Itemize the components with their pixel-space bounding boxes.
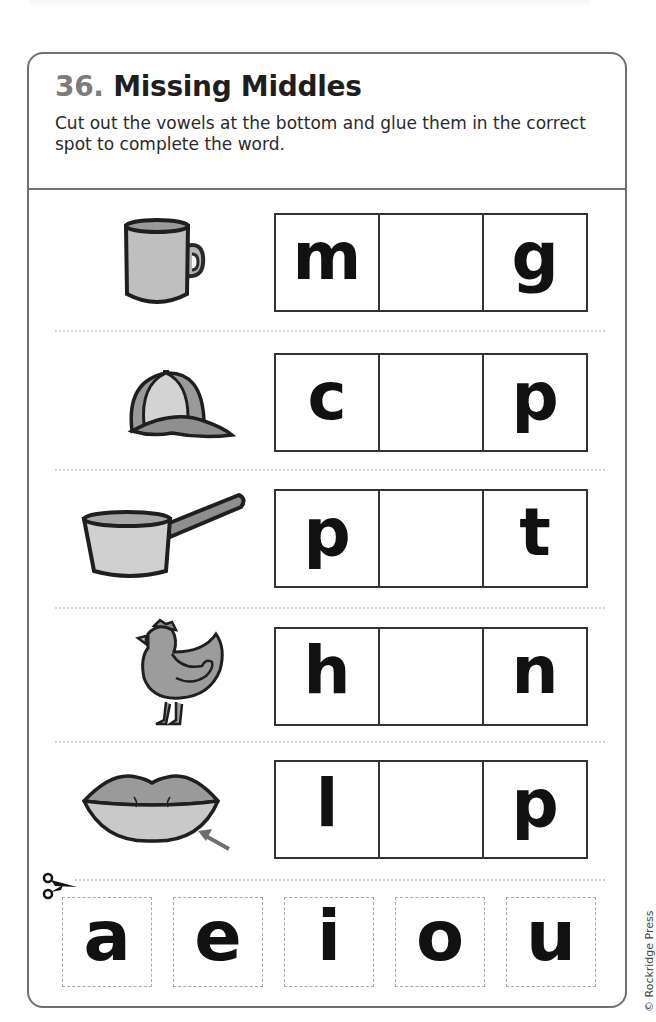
letter-boxes: h n: [274, 627, 588, 726]
vowel-cutout-i[interactable]: i: [284, 897, 374, 987]
row-divider: [55, 330, 605, 332]
letter-boxes: m g: [274, 213, 588, 312]
word-row-cap: c p: [29, 341, 629, 461]
first-letter: l: [276, 762, 380, 857]
worksheet-header: 36. Missing Middles Cut out the vowels a…: [29, 54, 625, 190]
word-row-hen: h n: [29, 614, 629, 734]
first-letter: c: [276, 355, 380, 450]
row-divider: [55, 741, 605, 743]
vowel-cutout-a[interactable]: a: [62, 897, 152, 987]
missing-vowel-slot[interactable]: [380, 762, 484, 857]
vowel-cutout-e[interactable]: e: [173, 897, 263, 987]
word-row-mug: m g: [29, 204, 629, 324]
first-letter: m: [276, 215, 380, 310]
letter-boxes: c p: [274, 353, 588, 452]
word-row-pan: p t: [29, 479, 629, 599]
vowel-cutout-u[interactable]: u: [506, 897, 596, 987]
cut-line: [75, 879, 605, 881]
last-letter: t: [484, 491, 586, 586]
activity-title: Missing Middles: [113, 70, 361, 103]
first-letter: p: [276, 491, 380, 586]
last-letter: g: [484, 215, 586, 310]
missing-vowel-slot[interactable]: [380, 491, 484, 586]
pan-icon: [54, 479, 254, 589]
lip-icon: [74, 751, 254, 861]
worksheet-card: 36. Missing Middles Cut out the vowels a…: [27, 52, 627, 1008]
copyright-notice: © Rockridge Press: [643, 910, 656, 1012]
last-letter: p: [484, 762, 586, 857]
instructions: Cut out the vowels at the bottom and glu…: [55, 113, 605, 155]
row-divider: [55, 607, 605, 609]
letter-boxes: l p: [274, 760, 588, 859]
page-bleed-through: [30, 0, 590, 8]
word-row-lip: l p: [29, 751, 629, 871]
first-letter: h: [276, 629, 380, 724]
mug-icon: [74, 204, 254, 314]
page-title: 36. Missing Middles: [55, 70, 362, 103]
cap-icon: [74, 341, 254, 451]
missing-vowel-slot[interactable]: [380, 215, 484, 310]
last-letter: n: [484, 629, 586, 724]
letter-boxes: p t: [274, 489, 588, 588]
vowel-cutout-o[interactable]: o: [395, 897, 485, 987]
activity-number: 36.: [55, 70, 104, 103]
last-letter: p: [484, 355, 586, 450]
missing-vowel-slot[interactable]: [380, 629, 484, 724]
hen-icon: [74, 614, 254, 724]
row-divider: [55, 469, 605, 471]
missing-vowel-slot[interactable]: [380, 355, 484, 450]
